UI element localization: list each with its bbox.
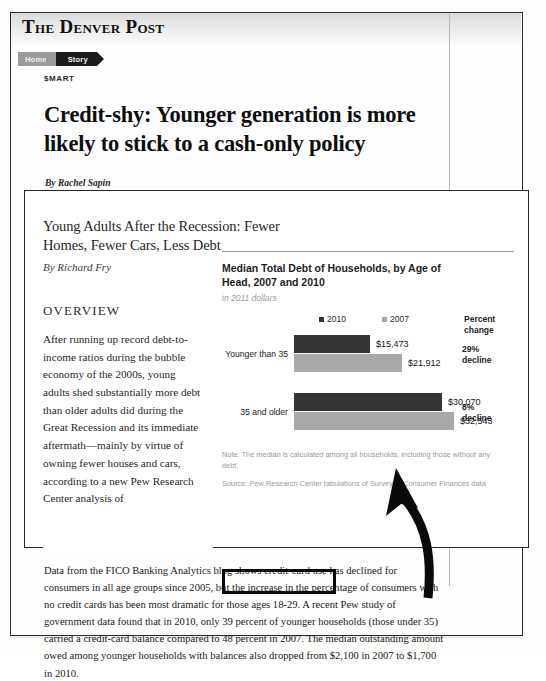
legend-swatch-icon — [382, 317, 387, 322]
percent-change-cell: 29% decline — [462, 344, 514, 365]
category-label: Younger than 35 — [222, 349, 288, 359]
breadcrumb-item-story[interactable]: Story — [56, 52, 97, 66]
bar-2007 — [294, 354, 402, 372]
section-kicker: $MART — [44, 74, 75, 83]
bar-2010 — [294, 393, 442, 411]
report-byline: By Richard Fry — [43, 261, 111, 273]
overview-body-text: After running up record debt-to-income r… — [43, 331, 203, 508]
breadcrumb[interactable]: Home Story — [18, 52, 97, 66]
chart-legend: 2010 2007 Percent change — [222, 314, 514, 326]
overview-heading: OVERVIEW — [43, 303, 120, 319]
percent-change-value: 29% — [462, 344, 514, 355]
bar-row: $15,473 — [294, 334, 441, 353]
legend-swatch-icon — [319, 317, 324, 322]
chart-title: Median Total Debt of Households, by Age … — [222, 261, 472, 289]
highlight-box-annotation — [222, 569, 336, 594]
bar-value-label: $21,912 — [408, 358, 441, 368]
bar-2010 — [294, 335, 370, 353]
article-headline: Credit-shy: Younger generation is more l… — [44, 101, 444, 159]
percent-change-value: 8% — [462, 402, 514, 413]
percent-change-word: decline — [462, 413, 514, 424]
breadcrumb-item-home[interactable]: Home — [18, 52, 56, 66]
category-label: 35 and older — [222, 407, 288, 417]
newspaper-masthead: The Denver Post — [22, 16, 164, 38]
inset-report-panel: Young Adults After the Recession: Fewer … — [24, 190, 529, 548]
chart-source: Source: Pew Research Center tabulations … — [222, 479, 504, 490]
legend-label: 2010 — [327, 314, 346, 324]
chart-subtitle: in 2011 dollars — [222, 293, 514, 303]
chart-top-rule — [222, 251, 514, 252]
bar-2007 — [294, 412, 454, 430]
chart-container: Median Total Debt of Households, by Age … — [222, 253, 514, 489]
percent-change-word: decline — [462, 355, 514, 366]
percent-change-cell: 8% decline — [462, 402, 514, 423]
legend-label: 2007 — [390, 314, 409, 324]
chart-note: Note: The median is calculated among all… — [222, 450, 492, 471]
bars: $15,473 $21,912 — [294, 334, 441, 372]
article-byline: By Rachel Sapin — [45, 178, 110, 188]
report-title: Young Adults After the Recession: Fewer … — [43, 217, 303, 256]
legend-entry-2010: 2010 — [319, 314, 346, 324]
bar-row: $21,912 — [294, 353, 441, 372]
text-clip-fade — [43, 536, 213, 549]
bar-groups: Younger than 35 $15,473 $21,912 29% — [222, 334, 514, 436]
bar-value-label: $15,473 — [376, 339, 409, 349]
bar-group: Younger than 35 $15,473 $21,912 29% — [222, 334, 514, 378]
bar-group: 35 and older $30,070 $32,543 8% d — [222, 392, 514, 436]
legend-entry-2007: 2007 — [382, 314, 409, 324]
percent-change-column-header: Percent change — [464, 314, 514, 335]
